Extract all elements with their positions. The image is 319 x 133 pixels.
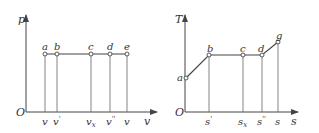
ts-label-a: a xyxy=(177,72,183,83)
pv-point-b xyxy=(55,52,59,56)
pv-tick-d: v'' xyxy=(106,115,116,127)
ts-origin-label: O xyxy=(175,106,184,119)
pv-origin-label: O xyxy=(16,106,25,119)
pv-point-a xyxy=(43,52,47,56)
ts-point-a xyxy=(184,76,188,80)
ts-diagram: T s O a b c d g s' sx s'' s xyxy=(175,13,298,129)
pv-label-d: d xyxy=(107,41,113,52)
ts-label-b: b xyxy=(207,43,213,54)
pv-tick-c: vx xyxy=(86,116,96,129)
ts-label-c: c xyxy=(240,43,246,54)
pv-y-axis-label: p xyxy=(18,13,25,26)
ts-tick-d: s'' xyxy=(257,115,266,127)
ts-label-d: d xyxy=(258,43,264,54)
pv-label-e: e xyxy=(124,41,130,52)
pv-diagram: p v O a b c d e v v' vx v'' v xyxy=(16,13,157,129)
ts-label-g: g xyxy=(276,30,282,41)
pv-tick-a: v xyxy=(42,116,48,127)
ts-tick-c: sx xyxy=(238,116,247,129)
ts-x-axis-label: s xyxy=(291,115,297,128)
pv-label-a: a xyxy=(42,41,48,52)
pv-label-b: b xyxy=(54,41,60,52)
pv-tick-b: v' xyxy=(53,115,61,127)
pv-x-axis-label: v xyxy=(144,115,151,128)
ts-tick-b: s' xyxy=(205,115,212,127)
pv-label-c: c xyxy=(88,41,94,52)
ts-tick-g: s xyxy=(275,116,280,127)
diagram-canvas: p v O a b c d e v v' vx v'' v T s O xyxy=(0,0,319,133)
pv-tick-e: v xyxy=(124,116,130,127)
pv-point-d xyxy=(108,52,112,56)
pv-point-e xyxy=(125,52,129,56)
pv-point-c xyxy=(89,52,93,56)
ts-y-axis-label: T xyxy=(175,13,184,26)
